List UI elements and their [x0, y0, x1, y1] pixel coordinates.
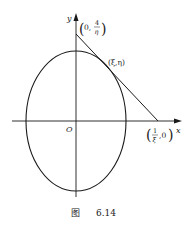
- svg-text:): ): [101, 21, 106, 37]
- tangent-point-label: (ξ,η): [108, 58, 125, 67]
- figure-caption-number: 6.14: [96, 208, 116, 218]
- x-intercept-label: ( 1 ξ ,0 ): [146, 127, 173, 144]
- svg-text:,0: ,0: [159, 131, 166, 140]
- svg-text:4: 4: [95, 19, 99, 27]
- x-axis-arrow-icon: [174, 119, 182, 124]
- x-axis-label: x: [176, 126, 181, 135]
- origin-label: O: [66, 125, 73, 134]
- svg-text:η: η: [95, 28, 99, 36]
- y-axis-arrow-icon: [74, 13, 79, 21]
- ellipse-tangent-diagram: y x O ( 0, 4 η ) (ξ,η) ( 1 ξ ,0 ) 图 6.14: [0, 0, 190, 230]
- figure-caption-prefix: 图: [71, 208, 80, 218]
- svg-text:): ): [168, 127, 173, 143]
- tangent-line: [76, 34, 158, 121]
- svg-text:ξ: ξ: [153, 136, 157, 144]
- y-intercept-label: ( 0, 4 η ): [79, 19, 106, 37]
- svg-text:(: (: [146, 127, 151, 143]
- y-axis-label: y: [66, 14, 72, 23]
- svg-text:1: 1: [153, 127, 157, 135]
- svg-text:0,: 0,: [84, 23, 91, 32]
